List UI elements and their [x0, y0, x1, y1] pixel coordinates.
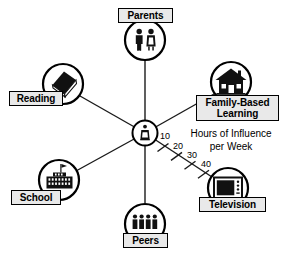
label-parents[interactable]: Parents — [118, 8, 173, 23]
label-television[interactable]: Television — [199, 197, 266, 212]
node-parents[interactable] — [125, 20, 165, 60]
center-node-child[interactable] — [133, 121, 158, 146]
parents-circle — [125, 20, 165, 60]
axis-title-line2: per Week — [177, 141, 285, 153]
tv-icon — [214, 178, 242, 199]
label-school[interactable]: School — [11, 190, 61, 205]
scale-label-10: 10 — [160, 131, 170, 141]
scale-label-40: 40 — [201, 159, 211, 169]
label-family-based-learning[interactable]: Family-Based Learning — [196, 95, 279, 121]
axis-title-line1: Hours of Influence — [177, 128, 285, 140]
label-peers[interactable]: Peers — [123, 233, 168, 248]
label-reading[interactable]: Reading — [9, 91, 63, 106]
